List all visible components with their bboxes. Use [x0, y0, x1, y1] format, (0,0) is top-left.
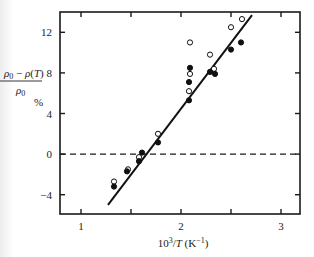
- filled-data-point: [136, 159, 141, 164]
- filled-data-point: [207, 69, 212, 74]
- open-data-point: [111, 179, 116, 184]
- y-tick-label: 0: [47, 148, 53, 160]
- fit-line: [108, 15, 252, 205]
- scatter-chart: 123−404812103/T (K−1)ρ0 − ρ(T)ρ0%: [0, 0, 314, 257]
- open-data-point: [187, 71, 192, 76]
- open-data-point: [207, 52, 212, 57]
- filled-data-point: [155, 140, 160, 145]
- plot-frame: [60, 12, 300, 214]
- filled-data-point: [124, 169, 129, 174]
- open-data-point: [228, 25, 233, 30]
- y-tick-label: 12: [41, 26, 52, 38]
- y-tick-label: −4: [40, 189, 52, 201]
- filled-data-point: [187, 65, 192, 70]
- filled-data-point: [238, 40, 243, 45]
- open-data-point: [186, 89, 191, 94]
- y-axis-label-denominator: ρ0: [15, 84, 25, 98]
- filled-data-point: [139, 150, 144, 155]
- open-data-point: [187, 40, 192, 45]
- y-tick-label: 4: [47, 108, 53, 120]
- x-tick-label: 3: [278, 220, 284, 232]
- y-axis-label-numerator: ρ0 − ρ(T): [3, 67, 44, 81]
- y-axis-label-unit: %: [34, 96, 43, 108]
- open-data-point: [239, 17, 244, 22]
- filled-data-point: [186, 79, 191, 84]
- x-axis-label: 103/T (K−1): [158, 236, 209, 250]
- filled-data-point: [111, 184, 116, 189]
- filled-data-point: [228, 47, 233, 52]
- x-tick-label: 2: [178, 220, 184, 232]
- filled-data-point: [186, 98, 191, 103]
- y-tick-label: 8: [47, 67, 53, 79]
- x-tick-label: 1: [78, 220, 84, 232]
- open-data-point: [155, 131, 160, 136]
- filled-data-point: [212, 71, 217, 76]
